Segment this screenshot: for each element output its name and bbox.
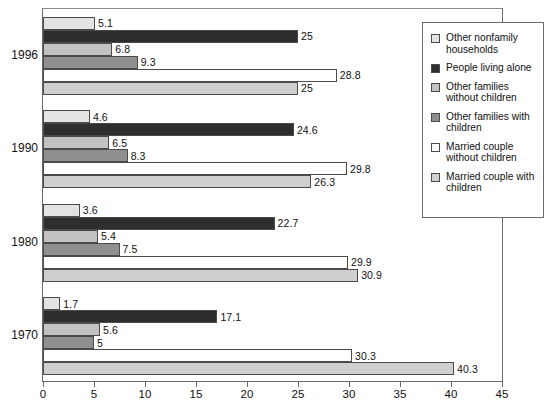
bar-chart: 5.1256.89.328.8254.624.66.58.329.826.33.… <box>0 0 550 415</box>
bar-value-label: 4.6 <box>90 111 108 123</box>
bar[interactable] <box>43 243 120 256</box>
bar-row: 30.9 <box>43 269 502 282</box>
x-tick <box>145 382 146 387</box>
x-tick-label: 45 <box>496 388 509 400</box>
year-label: 1996 <box>0 48 38 62</box>
bar-value-label: 7.5 <box>120 243 138 255</box>
bar-value-label: 17.1 <box>217 311 241 323</box>
bar-row: 30.3 <box>43 349 502 362</box>
bar[interactable] <box>43 349 352 362</box>
legend-swatch-icon <box>431 113 440 122</box>
bar[interactable] <box>43 149 128 162</box>
x-tick <box>247 382 248 387</box>
bar[interactable] <box>43 69 337 82</box>
x-tick-label: 5 <box>91 388 97 400</box>
bar[interactable] <box>43 43 112 56</box>
bar-row: 29.9 <box>43 256 502 269</box>
bar[interactable] <box>43 30 298 43</box>
x-tick <box>43 382 44 387</box>
bar[interactable] <box>43 136 109 149</box>
bar-row: 17.1 <box>43 310 502 323</box>
year-label: 1980 <box>0 235 38 249</box>
bar[interactable] <box>43 323 100 336</box>
bar-value-label: 28.8 <box>337 69 361 81</box>
bar[interactable] <box>43 162 347 175</box>
bar[interactable] <box>43 175 311 188</box>
legend-swatch-icon <box>431 34 440 43</box>
x-tick-label: 35 <box>394 388 407 400</box>
bar[interactable] <box>43 204 80 217</box>
bar[interactable] <box>43 217 275 230</box>
bar[interactable] <box>43 110 90 123</box>
bar[interactable] <box>43 82 298 95</box>
bar-value-label: 29.8 <box>347 163 371 175</box>
legend-items: Other nonfamily householdsPeople living … <box>431 32 537 194</box>
x-tick <box>94 382 95 387</box>
legend-item[interactable]: Married couple with children <box>431 171 537 194</box>
chart-legend: Other nonfamily householdsPeople living … <box>422 22 544 218</box>
bar-value-label: 30.9 <box>358 269 382 281</box>
x-axis-tick-labels: 051015202530354045 <box>42 388 503 408</box>
bar[interactable] <box>43 17 95 30</box>
legend-item[interactable]: People living alone <box>431 62 537 74</box>
legend-item[interactable]: Other families without children <box>431 81 537 104</box>
bar[interactable] <box>43 336 94 349</box>
bar-value-label: 6.8 <box>112 43 130 55</box>
x-tick-label: 40 <box>445 388 458 400</box>
legend-swatch-icon <box>431 64 440 73</box>
legend-item[interactable]: Married couple without children <box>431 141 537 164</box>
bar-row: 5.6 <box>43 323 502 336</box>
bar-value-label: 29.9 <box>348 256 372 268</box>
bar-row: 5.4 <box>43 230 502 243</box>
bar[interactable] <box>43 256 348 269</box>
bar-row: 5 <box>43 336 502 349</box>
bar-group: 1.717.15.6530.340.3 <box>43 297 502 375</box>
x-tick <box>349 382 350 387</box>
bar-value-label: 5.4 <box>98 230 116 242</box>
bar-value-label: 24.6 <box>294 124 318 136</box>
legend-swatch-icon <box>431 173 440 182</box>
bar[interactable] <box>43 56 138 69</box>
x-tick-label: 0 <box>40 388 46 400</box>
x-tick-label: 10 <box>139 388 152 400</box>
x-tick <box>196 382 197 387</box>
bar-value-label: 9.3 <box>138 56 156 68</box>
legend-item[interactable]: Other nonfamily households <box>431 32 537 55</box>
bar[interactable] <box>43 310 217 323</box>
bar-row: 22.7 <box>43 217 502 230</box>
bar-row: 1.7 <box>43 297 502 310</box>
bar[interactable] <box>43 230 98 243</box>
bar-value-label: 1.7 <box>60 298 78 310</box>
x-tick <box>502 382 503 387</box>
bar-value-label: 5.6 <box>100 324 118 336</box>
x-tick <box>451 382 452 387</box>
bar-value-label: 25 <box>298 30 313 42</box>
year-label: 1970 <box>0 328 38 342</box>
bar-value-label: 26.3 <box>311 176 335 188</box>
legend-label: Other families with children <box>446 111 537 134</box>
legend-item[interactable]: Other families with children <box>431 111 537 134</box>
bar-value-label: 40.3 <box>454 363 478 375</box>
bar-row: 7.5 <box>43 243 502 256</box>
bar-value-label: 3.6 <box>80 204 98 216</box>
bar[interactable] <box>43 269 358 282</box>
legend-label: Other nonfamily households <box>446 32 537 55</box>
bar[interactable] <box>43 362 454 375</box>
bar-value-label: 6.5 <box>109 137 127 149</box>
bar[interactable] <box>43 297 60 310</box>
x-tick <box>298 382 299 387</box>
x-tick-label: 30 <box>343 388 356 400</box>
legend-label: People living alone <box>446 62 532 74</box>
bar[interactable] <box>43 123 294 136</box>
x-tick <box>400 382 401 387</box>
legend-swatch-icon <box>431 83 440 92</box>
bar-value-label: 5 <box>94 337 103 349</box>
bar-value-label: 25 <box>298 82 313 94</box>
bar-value-label: 5.1 <box>95 17 113 29</box>
bar-value-label: 8.3 <box>128 150 146 162</box>
x-tick-label: 25 <box>292 388 305 400</box>
legend-label: Other families without children <box>446 81 537 104</box>
bar-value-label: 30.3 <box>352 350 376 362</box>
year-label: 1990 <box>0 141 38 155</box>
x-tick-label: 15 <box>190 388 203 400</box>
